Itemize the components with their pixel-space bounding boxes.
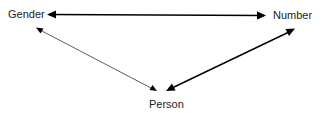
edge-person-gender bbox=[40, 30, 153, 89]
node-person: Person bbox=[149, 98, 184, 110]
arrowhead-gender-from-person bbox=[36, 28, 44, 34]
arrowhead-number bbox=[257, 12, 266, 20]
feature-diagram: Gender Number Person bbox=[0, 0, 324, 113]
edge-gender-number bbox=[49, 15, 264, 16]
arrowhead-gender bbox=[47, 11, 56, 19]
node-gender: Gender bbox=[8, 8, 45, 20]
node-number: Number bbox=[273, 9, 312, 21]
edge-number-person bbox=[172, 32, 289, 88]
